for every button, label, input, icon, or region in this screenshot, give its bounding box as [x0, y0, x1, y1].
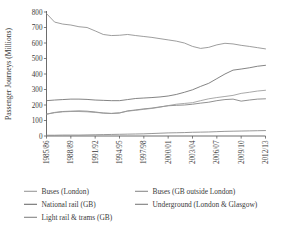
line-chart: 01002003004005006007008001985/861988/891… [0, 0, 287, 231]
legend-label: Light rail & trams (GB) [42, 213, 113, 222]
x-tick-label: 2012/13 [262, 140, 270, 164]
x-tick-label: 1991/92 [92, 140, 100, 164]
y-tick-label: 100 [32, 117, 43, 125]
y-tick-label: 800 [32, 9, 43, 17]
series-line-light-rail-trams-gb [47, 131, 266, 136]
y-tick-label: 300 [32, 86, 43, 94]
y-tick-label: 0 [39, 133, 43, 141]
legend-label: National rail (GB) [42, 200, 97, 209]
legend-label: Buses (GB outside London) [153, 187, 236, 196]
y-tick-label: 600 [32, 40, 43, 48]
x-tick-label: 1997/98 [140, 140, 148, 164]
legend-label: Underground (London & Glasgow) [153, 200, 258, 209]
x-tick-label: 2003/04 [189, 140, 197, 164]
x-tick-label: 2006/07 [213, 140, 221, 164]
y-tick-label: 400 [32, 71, 43, 79]
legend-label: Buses (London) [42, 187, 90, 196]
series-line-buses-london [47, 90, 266, 114]
x-tick-label: 1994/95 [116, 140, 124, 164]
x-tick-label: 2009/10 [238, 140, 246, 164]
y-tick-label: 500 [32, 55, 43, 63]
y-axis-title: Passenger Journeys (Millions) [4, 28, 13, 120]
x-tick-label: 1988/89 [67, 140, 75, 164]
x-tick-label: 2000/01 [165, 140, 173, 164]
y-tick-label: 200 [32, 102, 43, 110]
series-line-buses-gb-outside-london [47, 14, 266, 49]
series-line-underground-london-glasgow [47, 99, 266, 115]
y-tick-label: 700 [32, 24, 43, 32]
x-tick-label: 1985/86 [43, 140, 51, 164]
chart-container: 01002003004005006007008001985/861988/891… [0, 0, 287, 231]
